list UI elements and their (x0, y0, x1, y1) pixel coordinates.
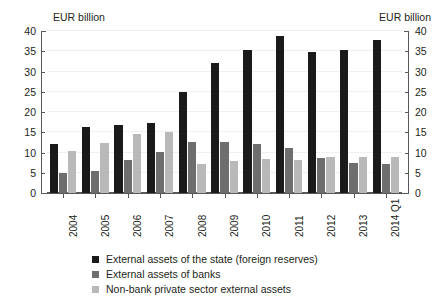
bar (220, 142, 228, 193)
y-tick-label: 35 (14, 46, 36, 56)
y-tick-left (41, 173, 45, 174)
bar-group (82, 31, 109, 193)
bar (276, 36, 284, 193)
y-tick-label: 35 (415, 46, 439, 56)
bar (308, 52, 316, 193)
x-tick (321, 194, 322, 198)
y-axis-title-left: EUR billion (53, 11, 105, 23)
bar (359, 157, 367, 193)
y-tick-label: 0 (415, 188, 439, 198)
y-tick-left (41, 193, 45, 194)
x-tick-label: 2009 (229, 215, 240, 237)
bar (262, 159, 270, 193)
bar-group (308, 31, 335, 193)
bar (243, 50, 251, 193)
y-tick-left (41, 132, 45, 133)
y-tick-left (41, 72, 45, 73)
y-tick-left (41, 92, 45, 93)
x-tick-label: 2013 (358, 215, 369, 237)
bar (317, 158, 325, 193)
y-tick-label: 25 (14, 87, 36, 97)
legend-swatch-icon (92, 256, 99, 263)
y-tick-left (41, 51, 45, 52)
x-tick-label: 2008 (197, 215, 208, 237)
bar (373, 40, 381, 193)
bar (197, 164, 205, 193)
bar (50, 144, 58, 193)
y-tick-label: 40 (415, 26, 439, 36)
x-tick (257, 194, 258, 198)
y-tick-right (405, 173, 409, 174)
bar (156, 152, 164, 193)
y-tick-right (405, 112, 409, 113)
x-tick (160, 194, 161, 198)
bar (188, 142, 196, 193)
legend-item[interactable]: External assets of banks (92, 267, 318, 282)
y-tick-label: 15 (14, 127, 36, 137)
bar (326, 157, 334, 193)
x-tick (192, 194, 193, 198)
y-tick-label: 5 (14, 168, 36, 178)
bar (285, 148, 293, 193)
x-tick (63, 194, 64, 198)
y-tick-right (405, 72, 409, 73)
x-tick (95, 194, 96, 198)
legend-label: External assets of the state (foreign re… (106, 252, 318, 267)
bar-group (373, 31, 400, 193)
y-tick-label: 30 (14, 67, 36, 77)
legend-label: External assets of banks (106, 267, 220, 282)
y-tick-label: 25 (415, 87, 439, 97)
bar (59, 173, 67, 193)
bar (294, 160, 302, 193)
bar (91, 171, 99, 193)
bar-group (276, 31, 303, 193)
y-tick-right (405, 193, 409, 194)
bar (230, 161, 238, 193)
bar (382, 164, 390, 193)
x-tick (289, 194, 290, 198)
y-tick-label: 40 (14, 26, 36, 36)
legend-swatch-icon (92, 286, 99, 293)
y-tick-label: 30 (415, 67, 439, 77)
y-tick-left (41, 153, 45, 154)
legend-item[interactable]: Non-bank private sector external assets (92, 282, 318, 297)
y-tick-label: 20 (415, 107, 439, 117)
x-tick-label: 2005 (100, 215, 111, 237)
y-tick-left (41, 112, 45, 113)
bar (253, 144, 261, 193)
x-tick (354, 194, 355, 198)
x-tick-label: 2014 Q1 (390, 199, 401, 237)
x-tick-label: 2007 (164, 215, 175, 237)
y-tick-right (405, 51, 409, 52)
y-tick-label: 10 (14, 148, 36, 158)
bar (68, 151, 76, 193)
y-tick-label: 15 (415, 127, 439, 137)
x-tick-label: 2011 (294, 215, 305, 237)
y-tick-left (41, 31, 45, 32)
bar-group (340, 31, 367, 193)
x-tick-label: 2004 (68, 215, 79, 237)
bar (179, 92, 187, 193)
bar-group (50, 31, 77, 193)
bar (349, 163, 357, 193)
bar-group (211, 31, 238, 193)
plot-area (47, 31, 402, 193)
bar-group (243, 31, 270, 193)
chart-legend: External assets of the state (foreign re… (92, 252, 318, 297)
y-tick-right (405, 132, 409, 133)
bar (124, 160, 132, 193)
bar (114, 125, 122, 193)
y-tick-label: 5 (415, 168, 439, 178)
legend-item[interactable]: External assets of the state (foreign re… (92, 252, 318, 267)
bar (211, 63, 219, 193)
legend-swatch-icon (92, 271, 99, 278)
y-tick-label: 20 (14, 107, 36, 117)
bar-group (114, 31, 141, 193)
bar (165, 132, 173, 193)
bar (82, 127, 90, 193)
x-tick (386, 194, 387, 198)
y-tick-right (405, 92, 409, 93)
x-tick-label: 2012 (326, 215, 337, 237)
x-tick-label: 2006 (132, 215, 143, 237)
y-tick-right (405, 31, 409, 32)
